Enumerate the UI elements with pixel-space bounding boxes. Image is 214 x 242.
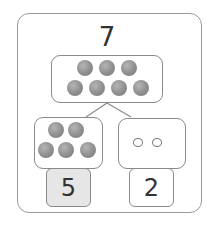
empty-counter <box>152 138 162 147</box>
part-right-number: 2 <box>129 168 174 207</box>
counter-ball <box>48 122 64 138</box>
part-right-counters-box <box>118 118 186 169</box>
counter-ball <box>99 60 115 76</box>
counter-ball <box>38 142 54 158</box>
counter-ball <box>77 60 93 76</box>
counter-ball <box>111 80 127 96</box>
counter-ball <box>89 80 105 96</box>
counter-ball <box>67 80 83 96</box>
whole-counters-box <box>51 55 163 103</box>
part-left-counters-box <box>34 117 103 169</box>
empty-counter <box>133 138 143 147</box>
part-left-number: 5 <box>46 168 91 207</box>
counter-ball <box>133 80 149 96</box>
counter-ball <box>121 60 137 76</box>
counter-ball <box>80 142 96 158</box>
counter-ball <box>58 142 74 158</box>
counter-ball <box>68 122 84 138</box>
